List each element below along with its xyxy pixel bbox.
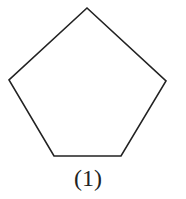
figure-caption: (1) [0,163,176,193]
pentagon-shape [9,8,166,156]
figure-canvas: (1) [0,0,186,199]
